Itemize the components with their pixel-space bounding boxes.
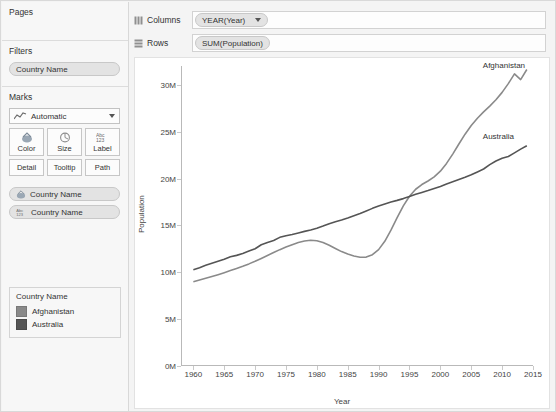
y-axis-tick-label: 0M (165, 362, 176, 371)
x-axis-tick-label: 1960 (184, 370, 202, 379)
marks-button-detail[interactable]: Detail (9, 159, 44, 176)
x-axis-tick-label: 2005 (462, 370, 480, 379)
y-axis-tick-mark (177, 179, 181, 180)
mark-type-label: Automatic (31, 112, 109, 121)
y-axis-tick-label: 10M (160, 268, 176, 277)
x-axis-tick-mark (471, 366, 472, 370)
filter-pill-country-name[interactable]: Country Name (9, 62, 120, 76)
marks-button-label: Tooltip (54, 163, 76, 172)
legend-label: Afghanistan (32, 307, 74, 316)
legend-label: Australia (32, 320, 63, 329)
x-axis-tick-mark (379, 366, 380, 370)
field-pill-label: SUM(Population) (202, 39, 263, 48)
columns-shelf: Columns YEAR(Year) (134, 11, 546, 29)
x-axis-tick-mark (255, 366, 256, 370)
legend-swatch (16, 319, 27, 330)
field-pill-population[interactable]: SUM(Population) (195, 36, 270, 50)
label-icon: Abc123 (16, 208, 27, 217)
color-legend-title: Country Name (10, 292, 120, 305)
x-axis-tick-label: 2015 (524, 370, 542, 379)
y-axis-title: Population (137, 195, 146, 233)
pages-shelf-title: Pages (2, 2, 128, 20)
x-axis-tick-label: 1975 (277, 370, 295, 379)
legend-swatch (16, 306, 27, 317)
svg-text:123: 123 (96, 137, 105, 143)
x-axis-tick-label: 1990 (370, 370, 388, 379)
y-axis-tick-label: 20M (160, 174, 176, 183)
marks-button-label: Label (93, 144, 111, 153)
y-axis-tick-mark (177, 85, 181, 86)
marks-button-path[interactable]: Path (85, 159, 120, 176)
columns-shelf-label: Columns (134, 15, 192, 25)
tableau-worksheet: Pages Filters Country Name Marks Automat… (0, 0, 556, 412)
line-mark-icon (14, 112, 27, 121)
line-australia (193, 146, 526, 270)
x-axis-tick-mark (440, 366, 441, 370)
y-axis-tick-mark (177, 272, 181, 273)
x-axis-title: Year (135, 397, 549, 406)
x-axis-tick-mark (286, 366, 287, 370)
marks-button-label[interactable]: Abc123 Label (85, 128, 120, 156)
marks-button-tooltip[interactable]: Tooltip (47, 159, 82, 176)
x-axis-tick-mark (317, 366, 318, 370)
x-axis-tick-mark (409, 366, 410, 370)
x-axis-tick-label: 1980 (308, 370, 326, 379)
y-axis-tick-mark (177, 319, 181, 320)
color-icon (21, 132, 33, 143)
marks-buttons: Color Size Abc123 Label Detail Tooltip (9, 128, 120, 176)
chart-view: Population Year 0M5M10M15M20M25M30M19601… (134, 57, 550, 409)
size-icon (59, 132, 71, 143)
y-axis-line (181, 66, 182, 366)
filters-shelf-title: Filters (2, 41, 128, 59)
marks-card-pill-label-country-name[interactable]: Abc123 Country Name (9, 205, 120, 219)
color-legend: Country Name Afghanistan Australia (9, 287, 121, 338)
color-icon (16, 190, 26, 199)
x-axis-line (181, 365, 533, 366)
x-axis-tick-label: 2010 (493, 370, 511, 379)
marks-button-color[interactable]: Color (9, 128, 44, 156)
columns-icon (134, 16, 143, 25)
marks-button-label: Path (95, 163, 110, 172)
series-annotation-label: Afghanistan (483, 61, 525, 70)
marks-button-label: Size (57, 144, 72, 153)
x-axis-tick-mark (533, 366, 534, 370)
columns-shelf-box[interactable]: YEAR(Year) (192, 11, 546, 29)
marks-card-pill-color-country-name[interactable]: Country Name (9, 187, 120, 201)
rows-shelf-text: Rows (147, 38, 168, 48)
y-axis-tick-label: 25M (160, 127, 176, 136)
x-axis-tick-mark (224, 366, 225, 370)
rows-icon (134, 39, 143, 48)
line-afghanistan (193, 69, 526, 281)
marks-button-label: Color (18, 144, 36, 153)
field-pill-label: YEAR(Year) (202, 16, 245, 25)
y-axis-tick-mark (177, 366, 181, 367)
marks-card-pill-label: Country Name (31, 208, 83, 217)
x-axis-tick-mark (193, 366, 194, 370)
marks-card-title: Marks (2, 87, 128, 105)
plot-area: 0M5M10M15M20M25M30M196019651970197519801… (181, 66, 533, 366)
legend-item[interactable]: Australia (10, 318, 120, 331)
legend-item[interactable]: Afghanistan (10, 305, 120, 318)
line-series-svg (181, 66, 533, 366)
rows-shelf-box[interactable]: SUM(Population) (192, 34, 546, 52)
mark-type-dropdown[interactable]: Automatic (9, 108, 120, 124)
marks-button-label: Detail (17, 163, 36, 172)
svg-text:123: 123 (16, 212, 24, 217)
x-axis-tick-label: 1965 (215, 370, 233, 379)
marks-button-size[interactable]: Size (47, 128, 82, 156)
columns-shelf-text: Columns (147, 15, 181, 25)
y-axis-tick-label: 15M (160, 221, 176, 230)
chevron-down-icon (255, 18, 261, 22)
x-axis-tick-mark (502, 366, 503, 370)
series-annotation-label: Australia (483, 132, 514, 141)
rows-shelf-label: Rows (134, 38, 192, 48)
y-axis-tick-label: 30M (160, 80, 176, 89)
marks-card-pill-label: Country Name (30, 190, 82, 199)
filter-pill-label: Country Name (16, 65, 68, 74)
field-pill-year[interactable]: YEAR(Year) (195, 13, 268, 27)
chevron-down-icon (109, 114, 115, 118)
x-axis-tick-label: 2000 (431, 370, 449, 379)
y-axis-tick-mark (177, 132, 181, 133)
x-axis-tick-mark (348, 366, 349, 370)
x-axis-tick-label: 1970 (246, 370, 264, 379)
